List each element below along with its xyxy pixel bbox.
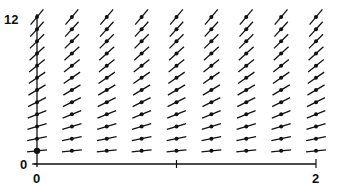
slope-point: [175, 100, 179, 104]
slope-point: [279, 64, 283, 68]
slope-point: [279, 76, 283, 80]
slope-point: [209, 125, 213, 129]
slope-point: [314, 112, 318, 116]
slope-point: [244, 39, 248, 43]
y-label-top: 12: [4, 12, 18, 27]
slope-point: [209, 27, 213, 31]
slope-point: [140, 149, 144, 153]
slope-point: [175, 76, 179, 80]
slope-point: [105, 112, 109, 116]
slope-point: [244, 64, 248, 68]
slope-point: [105, 137, 109, 141]
slope-point: [314, 88, 318, 92]
slope-point: [105, 27, 109, 31]
slope-point: [35, 39, 39, 43]
slope-point: [70, 15, 74, 19]
slope-point: [175, 39, 179, 43]
slope-point: [209, 88, 213, 92]
slope-point: [35, 137, 39, 141]
slope-point: [140, 39, 144, 43]
slope-point: [244, 52, 248, 56]
slope-point: [105, 149, 109, 153]
slope-point: [209, 137, 213, 141]
slope-point: [244, 100, 248, 104]
slope-point: [35, 27, 39, 31]
slope-point: [35, 112, 39, 116]
slope-point: [279, 125, 283, 129]
slope-segments: [27, 9, 326, 154]
slope-point: [279, 149, 283, 153]
slope-point: [209, 100, 213, 104]
slope-point: [70, 27, 74, 31]
slope-point: [140, 125, 144, 129]
slope-field-diagram: 12 0 0 2: [0, 0, 341, 193]
slope-point: [244, 125, 248, 129]
slope-point: [209, 149, 213, 153]
slope-point: [70, 88, 74, 92]
slope-point: [314, 149, 318, 153]
slope-point: [175, 125, 179, 129]
slope-point: [34, 148, 40, 154]
slope-point: [244, 76, 248, 80]
slope-point: [279, 88, 283, 92]
slope-point: [279, 39, 283, 43]
slope-point: [35, 76, 39, 80]
slope-point: [279, 52, 283, 56]
slope-point: [209, 112, 213, 116]
slope-point: [140, 15, 144, 19]
slope-point: [175, 27, 179, 31]
slope-point: [70, 52, 74, 56]
slope-point: [314, 100, 318, 104]
slope-point: [314, 15, 318, 19]
slope-point: [279, 112, 283, 116]
slope-point: [35, 125, 39, 129]
slope-point: [140, 27, 144, 31]
slope-point: [175, 15, 179, 19]
slope-point: [140, 52, 144, 56]
slope-point: [209, 64, 213, 68]
slope-point: [209, 52, 213, 56]
slope-point: [70, 100, 74, 104]
slope-point: [140, 100, 144, 104]
slope-point: [175, 64, 179, 68]
slope-point: [70, 137, 74, 141]
slope-point: [105, 88, 109, 92]
x-label-left: 0: [33, 171, 40, 186]
slope-point: [35, 64, 39, 68]
slope-point: [70, 125, 74, 129]
slope-point: [105, 52, 109, 56]
slope-point: [209, 76, 213, 80]
slope-point: [35, 52, 39, 56]
slope-point: [175, 88, 179, 92]
slope-point: [70, 76, 74, 80]
slope-point: [279, 27, 283, 31]
tick-labels: 12 0 0 2: [4, 12, 319, 186]
slope-point: [105, 39, 109, 43]
slope-point: [314, 76, 318, 80]
slope-point: [279, 15, 283, 19]
slope-point: [140, 88, 144, 92]
slope-point: [35, 88, 39, 92]
slope-point: [70, 39, 74, 43]
slope-point: [209, 15, 213, 19]
slope-point: [175, 137, 179, 141]
slope-point: [279, 100, 283, 104]
slope-point: [314, 64, 318, 68]
slope-point: [35, 15, 39, 19]
slope-point: [314, 137, 318, 141]
slope-point: [314, 27, 318, 31]
slope-point: [70, 112, 74, 116]
slope-point: [244, 88, 248, 92]
slope-point: [244, 137, 248, 141]
slope-point: [175, 149, 179, 153]
x-label-right: 2: [312, 171, 319, 186]
slope-point: [140, 137, 144, 141]
slope-point: [314, 52, 318, 56]
slope-point: [175, 52, 179, 56]
slope-point: [35, 100, 39, 104]
slope-point: [70, 64, 74, 68]
slope-point: [209, 39, 213, 43]
slope-point: [140, 64, 144, 68]
slope-point: [244, 15, 248, 19]
slope-point: [279, 137, 283, 141]
